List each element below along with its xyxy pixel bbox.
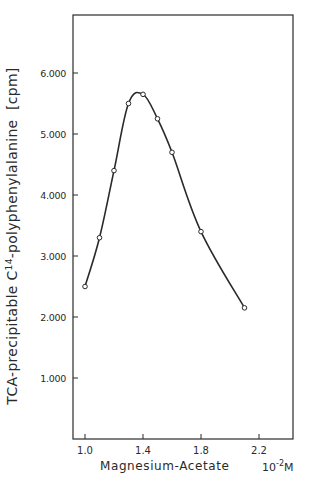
- x-ticks: [85, 434, 259, 439]
- x-axis-unit: 10-2M: [262, 459, 293, 474]
- x-tick-label: 1.8: [193, 445, 209, 456]
- data-point-marker: [112, 168, 117, 173]
- data-curve: [85, 92, 245, 307]
- y-tick-label: 5.000: [40, 129, 66, 140]
- plot-frame: [73, 15, 293, 439]
- data-point-marker: [242, 306, 247, 311]
- x-tick-label: 2.2: [251, 445, 267, 456]
- data-point-marker: [97, 235, 102, 240]
- y-tick-label: 1.000: [40, 373, 66, 384]
- data-point-marker: [170, 150, 175, 155]
- y-tick-label: 3.000: [40, 251, 66, 262]
- data-point-marker: [155, 116, 160, 121]
- y-tick-label: 6.000: [40, 68, 66, 79]
- x-axis-label: Magnesium-Acetate: [100, 459, 230, 473]
- y-ticks: [73, 73, 78, 378]
- data-point-marker: [126, 101, 131, 106]
- y-axis-label: TCA-precipitable C14-polyphenylalanine […: [4, 67, 21, 404]
- y-tick-label: 2.000: [40, 312, 66, 323]
- data-point-marker: [199, 229, 204, 234]
- x-tick-label: 1.0: [77, 445, 93, 456]
- y-tick-label: 4.000: [40, 190, 66, 201]
- x-tick-label: 1.4: [135, 445, 151, 456]
- data-point-marker: [141, 92, 146, 97]
- data-point-marker: [83, 284, 88, 289]
